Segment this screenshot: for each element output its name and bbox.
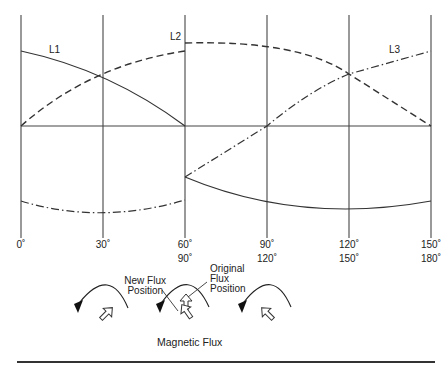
rotation-arrow-1: [74, 285, 128, 313]
x-ticks-row1: 0˚ 30˚ 60˚ 90˚ 120˚ 150˚: [17, 239, 441, 250]
svg-text:0˚: 0˚: [17, 239, 26, 250]
svg-text:120˚: 120˚: [339, 239, 359, 250]
label-l1: L1: [49, 44, 61, 55]
svg-text:90˚: 90˚: [178, 253, 192, 264]
original-flux-label: Original Flux Position: [210, 263, 246, 294]
svg-text:Position: Position: [210, 283, 246, 294]
svg-text:90˚: 90˚: [260, 239, 274, 250]
flux-arrow-icon-3: [257, 303, 277, 323]
l2-curve: [21, 43, 431, 126]
svg-text:60˚: 60˚: [178, 239, 192, 250]
diagram-caption: Magnetic Flux: [157, 336, 223, 348]
arrowhead-icon: [238, 300, 247, 313]
flux-diagram: L1 L2 L3 0˚ 30˚ 60˚ 90˚ 120˚ 150˚ 90˚ 12…: [0, 0, 446, 368]
arrowhead-icon: [74, 300, 83, 313]
svg-text:180˚: 180˚: [421, 253, 441, 264]
leader-original-flux: [188, 282, 207, 297]
flux-arrow-icon-1: [97, 303, 117, 323]
svg-text:Position: Position: [127, 285, 163, 296]
svg-text:30˚: 30˚: [96, 239, 110, 250]
svg-text:150˚: 150˚: [421, 239, 441, 250]
l1-curve: [21, 51, 431, 209]
label-l3: L3: [389, 44, 401, 55]
l3-curve: [21, 51, 431, 213]
new-flux-label: New Flux Position: [124, 275, 166, 296]
svg-text:120˚: 120˚: [257, 253, 277, 264]
label-l2: L2: [170, 31, 182, 42]
svg-text:150˚: 150˚: [339, 253, 359, 264]
arrowhead-icon: [156, 300, 165, 313]
